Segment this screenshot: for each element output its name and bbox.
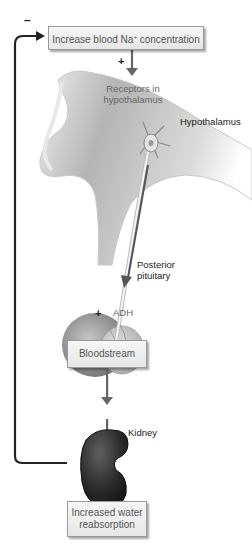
bloodstream-text: Bloodstream — [79, 348, 135, 360]
kidney-illustration — [81, 430, 128, 508]
stimulus-text: Increase blood Na+ concentration — [52, 31, 200, 46]
adh-label: ADH — [113, 307, 133, 318]
response-text-line1: Increased water — [71, 507, 142, 519]
adh-plus-sign: + — [95, 307, 101, 319]
receptors-label: Receptors in hypothalamus — [98, 83, 168, 105]
hypothalamus-label: Hypothalamus — [180, 116, 241, 127]
kidney-label: Kidney — [128, 427, 157, 438]
stimulus-plus-sign: + — [118, 55, 124, 67]
response-text-line2: reabsorption — [79, 519, 135, 531]
negative-feedback-sign: – — [24, 13, 31, 27]
response-box: Increased water reabsorption — [67, 501, 147, 537]
stimulus-box: Increase blood Na+ concentration — [48, 26, 204, 50]
posterior-pituitary-label: Posterior pituitary — [137, 259, 175, 281]
bloodstream-box: Bloodstream — [67, 340, 147, 368]
